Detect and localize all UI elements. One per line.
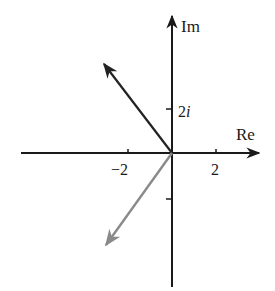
upper-left-vector xyxy=(104,64,172,153)
tick-label-im-2-unit: i xyxy=(186,103,190,120)
re-axis-label: Re xyxy=(236,125,255,144)
complex-plane-diagram: Im Re −2 2 2i xyxy=(0,0,275,291)
tick-label-re-2: 2 xyxy=(211,161,219,178)
tick-label-im-2-num: 2 xyxy=(178,103,186,120)
tick-label-re-neg2: −2 xyxy=(111,161,128,178)
tick-label-im-2: 2i xyxy=(178,103,190,120)
im-axis-label: Im xyxy=(181,17,200,36)
